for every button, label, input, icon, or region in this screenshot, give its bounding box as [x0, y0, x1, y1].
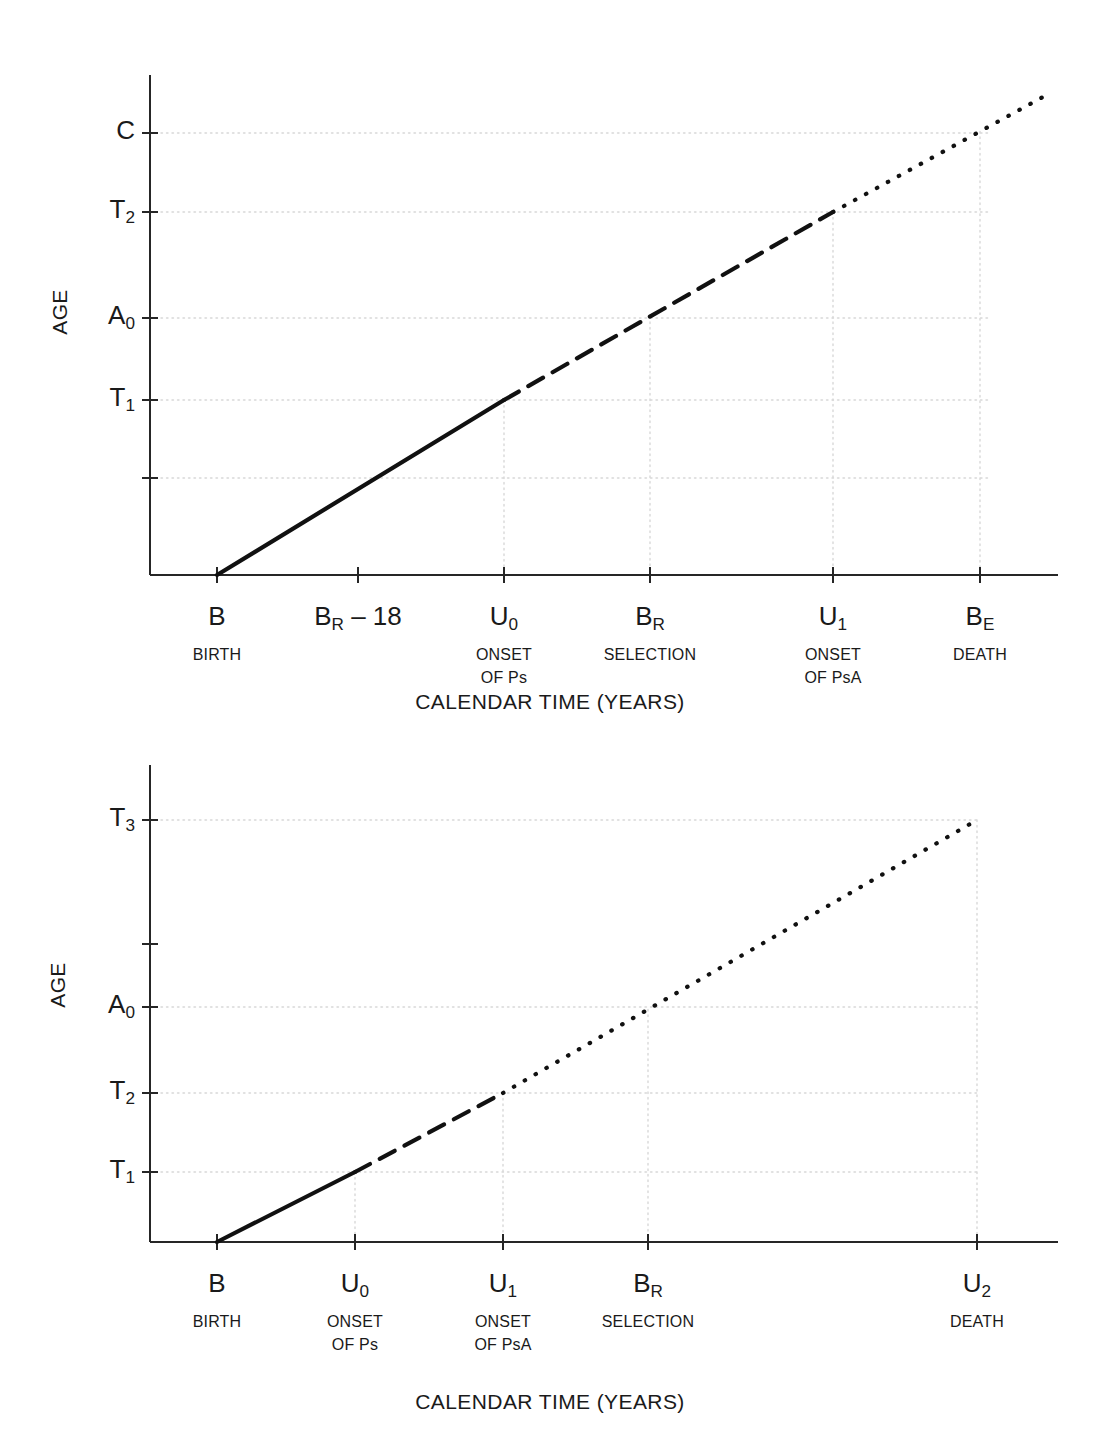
figure-container: AGE CALENDAR TIME (YEARS) CT2A0T1 BBIRTH… — [0, 0, 1103, 1451]
x-tick-label: BR — [635, 603, 665, 629]
x-tick-description: SELECTION — [604, 643, 697, 666]
x-tick-label: U1 — [489, 1270, 517, 1296]
x-tick-description: ONSETOF Ps — [327, 1310, 383, 1356]
trajectory-segment-dotted — [503, 820, 977, 1093]
x-tick-description: BIRTH — [193, 643, 242, 666]
x-tick-description: SELECTION — [602, 1310, 695, 1333]
x-tick-label: BR — [633, 1270, 663, 1296]
trajectory-segment-dotted — [833, 92, 1052, 212]
y-tick-label: A0 — [80, 991, 135, 1017]
y-tick-label: T2 — [80, 196, 135, 222]
x-tick-description: DEATH — [950, 1310, 1004, 1333]
y-tick-label: T1 — [80, 1156, 135, 1182]
trajectory-segment-dashed — [504, 212, 833, 400]
x-tick-label: B — [208, 603, 225, 629]
x-tick-label: BE — [966, 603, 995, 629]
plot-area-bottom — [0, 735, 1103, 1451]
x-tick-label: BR – 18 — [314, 603, 402, 629]
x-tick-label: U2 — [963, 1270, 991, 1296]
y-tick-label: C — [80, 117, 135, 143]
chart-panel-top: AGE CALENDAR TIME (YEARS) CT2A0T1 BBIRTH… — [0, 0, 1103, 760]
plot-area-top — [0, 0, 1103, 760]
trajectory-segment-solid — [217, 400, 504, 575]
trajectory-segment-solid — [217, 1172, 355, 1242]
y-tick-label: T2 — [80, 1077, 135, 1103]
y-tick-label: T1 — [80, 384, 135, 410]
x-tick-description: DEATH — [953, 643, 1007, 666]
x-tick-label: U0 — [490, 603, 518, 629]
x-tick-description: ONSETOF Ps — [476, 643, 532, 689]
y-axis-title-bottom: AGE — [46, 925, 70, 1045]
chart-panel-bottom: AGE CALENDAR TIME (YEARS) T3A0T2T1 BBIRT… — [0, 735, 1103, 1451]
x-tick-description: BIRTH — [193, 1310, 242, 1333]
y-tick-label: A0 — [80, 302, 135, 328]
x-tick-label: U0 — [341, 1270, 369, 1296]
x-tick-description: ONSETOF PsA — [474, 1310, 531, 1356]
x-tick-label: U1 — [819, 603, 847, 629]
trajectory-segment-dashed — [355, 1093, 503, 1172]
x-axis-title-top: CALENDAR TIME (YEARS) — [340, 690, 760, 714]
x-tick-label: B — [208, 1270, 225, 1296]
x-tick-description: ONSETOF PsA — [804, 643, 861, 689]
y-tick-label: T3 — [80, 804, 135, 830]
x-axis-title-bottom: CALENDAR TIME (YEARS) — [340, 1390, 760, 1414]
y-axis-title-top: AGE — [48, 252, 72, 372]
